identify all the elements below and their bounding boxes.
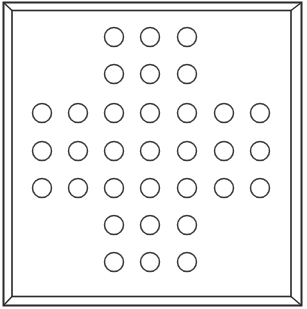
peg-hole[interactable] (141, 28, 160, 47)
peg-hole[interactable] (215, 179, 234, 198)
peg-hole[interactable] (215, 142, 234, 161)
peg-hole[interactable] (69, 179, 88, 198)
peg-hole[interactable] (178, 253, 197, 272)
peg-hole[interactable] (178, 179, 197, 198)
peg-hole[interactable] (141, 253, 160, 272)
peg-hole[interactable] (141, 65, 160, 84)
peg-hole[interactable] (105, 216, 124, 235)
peg-hole[interactable] (33, 179, 52, 198)
peg-hole[interactable] (105, 179, 124, 198)
hole-grid (33, 28, 270, 272)
peg-hole[interactable] (141, 216, 160, 235)
peg-hole[interactable] (141, 104, 160, 123)
peg-hole[interactable] (69, 142, 88, 161)
peg-hole[interactable] (141, 179, 160, 198)
frame-bevel-bl (4, 297, 13, 306)
peg-hole[interactable] (178, 216, 197, 235)
peg-hole[interactable] (141, 142, 160, 161)
peg-hole[interactable] (178, 65, 197, 84)
peg-hole[interactable] (178, 28, 197, 47)
peg-hole[interactable] (251, 179, 270, 198)
peg-hole[interactable] (105, 65, 124, 84)
peg-hole[interactable] (215, 104, 234, 123)
peg-hole[interactable] (178, 142, 197, 161)
peg-hole[interactable] (105, 28, 124, 47)
peg-hole[interactable] (251, 142, 270, 161)
peg-hole[interactable] (178, 104, 197, 123)
peg-hole[interactable] (33, 104, 52, 123)
peg-hole[interactable] (33, 142, 52, 161)
peg-hole[interactable] (69, 104, 88, 123)
peg-hole[interactable] (105, 104, 124, 123)
peg-hole[interactable] (251, 104, 270, 123)
frame-bevel-br (291, 297, 302, 306)
game-board (0, 0, 307, 309)
peg-hole[interactable] (105, 142, 124, 161)
frame-bevel-tl (4, 3, 13, 11)
peg-hole[interactable] (105, 253, 124, 272)
frame-bevel-tr (291, 3, 302, 11)
